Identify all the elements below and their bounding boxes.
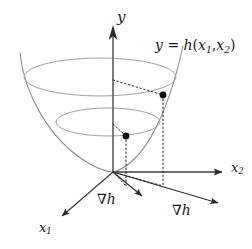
guide-radius-upper [113, 80, 163, 95]
upper-contour [24, 58, 176, 96]
figure-canvas: y x2 x1 y = h(x1,x2) ∇h ∇h [0, 0, 252, 249]
gradient-inner-arrow [113, 172, 142, 196]
equation-arg1-sub: 1 [206, 44, 212, 55]
equation-arg2-sub: 2 [224, 44, 230, 55]
equation-function: h [184, 37, 193, 53]
axis-label-x2: x2 [231, 161, 244, 174]
equation-equals: = [167, 37, 179, 53]
nabla-icon: ∇ [97, 191, 107, 207]
axis-label-x1: x1 [39, 221, 52, 234]
gradient-label-inner-var: h [107, 191, 116, 207]
equation-arg1: x [198, 37, 206, 53]
upper-point [160, 92, 167, 99]
surface-equation-label: y = h(x1,x2) [155, 38, 236, 52]
lower-contour [56, 108, 160, 136]
gradient-label-inner: ∇h [97, 192, 116, 206]
equation-lhs: y [155, 37, 163, 53]
gradient-outer-arrow [113, 172, 218, 203]
lower-point [123, 133, 130, 140]
axis-label-y-text: y [117, 8, 125, 26]
axis-label-x1-sub: 1 [46, 226, 51, 236]
gradient-label-outer: ∇h [172, 203, 191, 217]
gradient-vectors [113, 172, 218, 203]
nabla-icon: ∇ [172, 202, 182, 218]
axis-label-x2-sub: 2 [238, 166, 243, 176]
axis-y [109, 25, 118, 172]
gradient-label-outer-var: h [182, 202, 191, 218]
axis-label-y: y [117, 10, 125, 25]
